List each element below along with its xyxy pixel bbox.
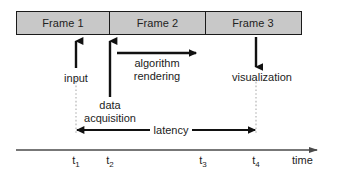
frame-3-label: Frame 3: [232, 17, 274, 29]
frame-cell-1: Frame 1: [17, 12, 109, 34]
rendering-label: rendering: [134, 70, 180, 83]
algorithm-label: algorithm: [134, 57, 179, 70]
tick-sub-t3: 3: [202, 160, 206, 169]
data-acquisition-label-line2: acquisition: [84, 112, 136, 125]
frame-bar: Frame 1 Frame 2 Frame 3: [16, 11, 302, 35]
tick-label-t4: t4: [252, 154, 260, 169]
tick-label-t2: t2: [106, 154, 114, 169]
tick-sub-t1: 1: [75, 160, 79, 169]
diagram-canvas: Frame 1 Frame 2 Frame 3: [0, 0, 337, 173]
tick-sub-t4: 4: [255, 160, 259, 169]
input-label: input: [64, 72, 88, 85]
frame-2-label: Frame 2: [137, 17, 179, 29]
tick-sub-t2: 2: [109, 160, 113, 169]
tick-label-t3: t3: [199, 154, 207, 169]
data-acquisition-label-line1: data: [99, 99, 120, 112]
time-axis-label: time: [292, 154, 313, 166]
tick-label-t1: t1: [72, 154, 80, 169]
frame-cell-3: Frame 3: [205, 12, 300, 34]
frame-cell-2: Frame 2: [109, 12, 205, 34]
latency-label: latency: [154, 124, 189, 137]
visualization-label: visualization: [232, 71, 292, 84]
frame-1-label: Frame 1: [42, 17, 84, 29]
